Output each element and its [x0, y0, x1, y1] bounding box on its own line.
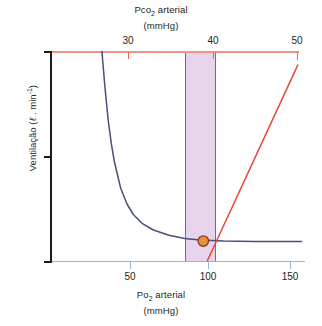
figure-caption-clipped [0, 317, 322, 326]
bottom-axis-title-line1: Po2 arterial [0, 289, 322, 305]
pco2-ventilation-line [207, 65, 298, 262]
bottom-axis-title: Po2 arterial (mmHg) [0, 289, 322, 317]
bottom-axis-title-line2: (mmHg) [0, 305, 322, 317]
po2-ventilation-curve [102, 52, 302, 242]
normal-operating-point-marker [198, 236, 208, 246]
chart-curves [0, 0, 322, 326]
ventilation-response-chart: Pco2 arterial (mmHg) Ventilação (ℓ . min… [0, 0, 322, 326]
